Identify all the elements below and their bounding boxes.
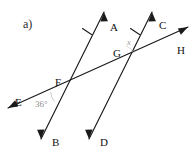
parallel-tick-cd (131, 29, 140, 35)
line-eh-transversal (8, 27, 188, 108)
part-label: a) (23, 18, 32, 30)
point-label-f: F (55, 77, 61, 88)
line-cd-segment (89, 12, 152, 139)
point-label-c: C (159, 20, 166, 31)
point-label-g: G (113, 48, 121, 59)
line-eh-segment (8, 27, 188, 108)
angle-arc-f (51, 92, 55, 102)
line-cd (85, 12, 156, 139)
arrowhead-h (178, 27, 188, 35)
parallel-tick-ab (83, 29, 92, 35)
line-ab (37, 12, 108, 139)
point-label-a: A (110, 22, 118, 33)
point-label-d: D (100, 137, 108, 148)
point-label-b: B (52, 137, 59, 148)
geometry-figure: a) A B C D E F G H 36° x (0, 0, 194, 149)
point-label-e: E (15, 97, 22, 108)
line-ab-segment (41, 12, 104, 139)
point-label-h: H (177, 45, 185, 56)
angle-label-g: x (127, 38, 131, 47)
angle-label-f: 36° (35, 100, 48, 109)
